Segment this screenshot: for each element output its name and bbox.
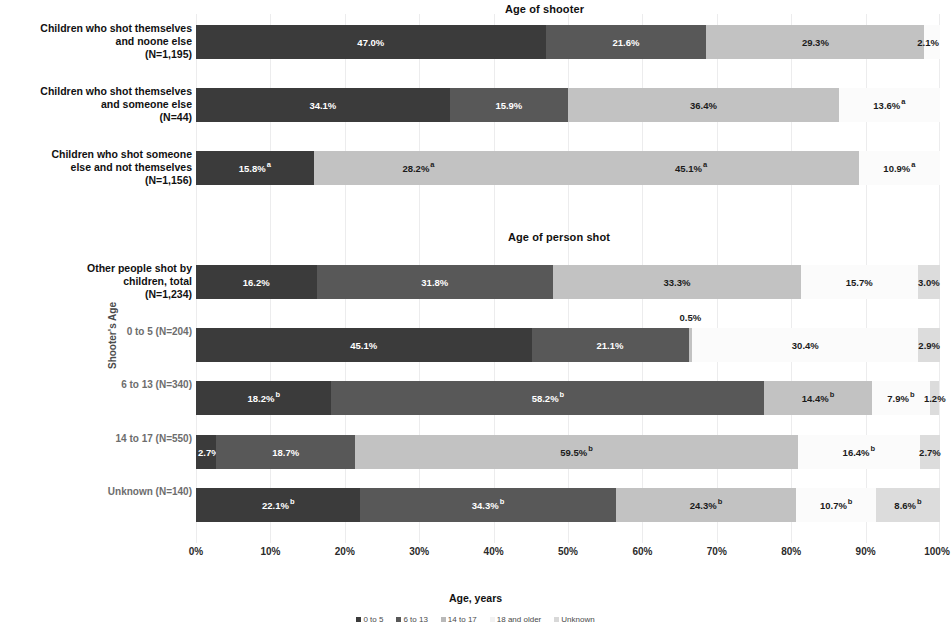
legend-label: 0 to 5 [363, 615, 383, 624]
table-row: Unknown (N=140) 22.1%b 34.3%b 24.3%b 10.… [0, 485, 951, 525]
legend-label: 18 and older [497, 615, 541, 624]
row-label-other-people-shot-by-children-total: Other people shot by children, total (N=… [8, 262, 192, 301]
bar-segment-0-to-5: 45.1% [196, 328, 532, 362]
bar-segment-6-to-13: 15.9% [450, 88, 568, 122]
bar-segment-14-to-17: 24.3%b [616, 488, 797, 522]
table-row: Children who shot someone else and not t… [0, 148, 951, 188]
x-tick-60: 60% [632, 546, 652, 557]
legend-label: 14 to 17 [448, 615, 477, 624]
legend-swatch-icon [554, 617, 559, 622]
legend-label: Unknown [561, 615, 594, 624]
footnote-marker: b [500, 497, 505, 506]
footnote-marker: a [430, 160, 434, 169]
bar-segment-6-to-13: 21.1% [532, 328, 689, 362]
x-tick-0: 0% [189, 546, 203, 557]
row-label-children-shot-themselves-noone-else: Children who shot themselves and noone e… [8, 22, 192, 61]
legend-swatch-icon [356, 617, 361, 622]
footnote-marker: b [830, 390, 835, 399]
table-row: 0 to 5 (N=204) 45.1% 21.1% 0.5% 30.4% 2.… [0, 325, 951, 365]
legend-item-0-to-5[interactable]: 0 to 5 [356, 615, 383, 624]
footnote-marker: a [901, 97, 905, 106]
table-row: Other people shot by children, total (N=… [0, 262, 951, 302]
bar-segment-0-to-5: 18.2%b [196, 381, 331, 415]
bar-segment-6-to-13: 18.7% [216, 435, 355, 469]
row-label-shooter-age-6-to-13: 6 to 13 (N=340) [8, 378, 192, 391]
legend-item-unknown[interactable]: Unknown [554, 615, 594, 624]
bar-segment-14-to-17: 36.4% [568, 88, 839, 122]
bar-segment-18-and-older: 2.1% [924, 25, 940, 59]
footnote-marker: b [290, 497, 295, 506]
bar-segment-0-to-5: 2.7%b [196, 435, 216, 469]
bar-segment-18-and-older: 15.7% [801, 265, 918, 299]
x-tick-90: 90% [856, 546, 876, 557]
row-label-shooter-age-unknown: Unknown (N=140) [8, 485, 192, 498]
bar-segment-0-to-5: 15.8%a [196, 151, 314, 185]
bar-segment-14-to-17: 45.1%a [523, 151, 859, 185]
bar-shooter-age-unknown: 22.1%b 34.3%b 24.3%b 10.7%b 8.6%b [196, 488, 940, 522]
bar-segment-14-to-17: 59.5%b [355, 435, 798, 469]
bar-segment-0-to-5: 22.1%b [196, 488, 360, 522]
row-label-shooter-age-0-to-5: 0 to 5 (N=204) [8, 325, 192, 338]
footnote-marker: b [848, 497, 853, 506]
footnote-marker: b [588, 444, 593, 453]
footnote-marker: b [871, 444, 876, 453]
bar-segment-18-and-older: 7.9%b [872, 381, 931, 415]
x-tick-50: 50% [558, 546, 578, 557]
row-label-shooter-age-14-to-17: 14 to 17 (N=550) [8, 432, 192, 445]
bar-shooter-age-6-to-13: 18.2%b 58.2%b 14.4%b 7.9%b 1.2% [196, 381, 940, 415]
bar-segment-unknown: 2.9% [918, 328, 940, 362]
bar-segment-18-and-older: 10.9%a [859, 151, 940, 185]
bar-segment-14-to-17: 33.3% [553, 265, 801, 299]
panel-title-age-of-shooter: Age of shooter [505, 3, 584, 15]
bar-segment-18-and-older: 16.4%b [798, 435, 920, 469]
bar-segment-6-to-13: 28.2%a [314, 151, 524, 185]
footnote-marker: b [910, 390, 915, 399]
bar-segment-unknown: 1.2% [930, 381, 939, 415]
legend: 0 to 5 6 to 13 14 to 17 18 and older Unk… [0, 615, 951, 624]
bar-segment-6-to-13: 31.8% [317, 265, 554, 299]
bar-segment-18-and-older: 30.4% [692, 328, 918, 362]
bar-children-shot-themselves-someone-else: 34.1% 15.9% 36.4% 13.6%a [196, 88, 940, 122]
bar-children-shot-someone-else-not-themselves: 15.8%a 28.2%a 45.1%a 10.9%a [196, 151, 940, 185]
bar-shooter-age-14-to-17: 2.7%b 18.7% 59.5%b 16.4%b 2.7% [196, 435, 940, 469]
bar-segment-6-to-13: 21.6% [546, 25, 707, 59]
bar-segment-0-to-5: 47.0% [196, 25, 546, 59]
legend-swatch-icon [490, 617, 495, 622]
legend-label: 6 to 13 [403, 615, 427, 624]
footnote-marker: b [275, 390, 280, 399]
legend-swatch-icon [441, 617, 446, 622]
footnote-marker: b [718, 497, 723, 506]
x-tick-40: 40% [484, 546, 504, 557]
bar-segment-unknown: 2.7% [920, 435, 940, 469]
bar-segment-unknown: 3.0% [918, 265, 940, 299]
x-axis-title-age-years: Age, years [0, 592, 951, 604]
table-row: 14 to 17 (N=550) 2.7%b 18.7% 59.5%b 16.4… [0, 432, 951, 472]
bar-segment-18-and-older: 10.7%b [796, 488, 876, 522]
row-label-children-shot-themselves-someone-else: Children who shot themselves and someone… [8, 85, 192, 124]
row-label-children-shot-someone-else-not-themselves: Children who shot someone else and not t… [8, 148, 192, 187]
footnote-marker: a [703, 160, 707, 169]
bar-segment-unknown: 8.6%b [876, 488, 940, 522]
bar-segment-6-to-13: 34.3%b [360, 488, 615, 522]
bar-segment-0-to-5: 16.2% [196, 265, 317, 299]
legend-item-6-to-13[interactable]: 6 to 13 [396, 615, 427, 624]
panel-title-age-of-person-shot: Age of person shot [508, 231, 610, 243]
table-row: Children who shot themselves and noone e… [0, 22, 951, 62]
x-tick-100: 100% [924, 546, 950, 557]
x-tick-30: 30% [409, 546, 429, 557]
legend-item-18-and-older[interactable]: 18 and older [490, 615, 541, 624]
footnote-marker: a [911, 160, 915, 169]
table-row: Children who shot themselves and someone… [0, 85, 951, 125]
bar-segment-14-to-17: 29.3% [706, 25, 924, 59]
bar-shooter-age-0-to-5: 45.1% 21.1% 0.5% 30.4% 2.9% [196, 328, 940, 362]
legend-item-14-to-17[interactable]: 14 to 17 [441, 615, 477, 624]
footnote-marker: b [917, 497, 922, 506]
bar-children-shot-themselves-noone-else: 47.0% 21.6% 29.3% 2.1% [196, 25, 940, 59]
bar-segment-0-to-5: 34.1% [196, 88, 450, 122]
bar-other-people-shot-by-children-total: 16.2% 31.8% 33.3% 15.7% 3.0% [196, 265, 940, 299]
x-tick-80: 80% [781, 546, 801, 557]
x-tick-10: 10% [260, 546, 280, 557]
x-tick-70: 70% [707, 546, 727, 557]
bar-segment-6-to-13: 58.2%b [331, 381, 764, 415]
footnote-marker: b [560, 390, 565, 399]
